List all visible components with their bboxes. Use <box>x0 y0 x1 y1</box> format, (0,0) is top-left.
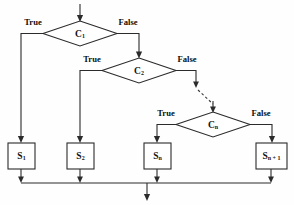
flowchart-svg: C1 True False C2 True <box>0 0 294 205</box>
edge-c1-true <box>18 34 43 144</box>
merge-edge-s2 <box>77 169 83 183</box>
merge-edge-sn-plus-1 <box>268 169 274 183</box>
label-c2-false: False <box>177 54 196 64</box>
edge-c2-false <box>176 71 199 89</box>
decision-c2[interactable]: C2 <box>102 58 176 83</box>
label-c1-false: False <box>118 17 137 27</box>
dashed-continuation-connector <box>198 90 216 113</box>
process-sn-plus-1[interactable]: Sn + 1 <box>256 143 287 169</box>
edge-cn-true <box>154 125 176 144</box>
merge-edge-s1 <box>18 169 24 183</box>
edge-cn-false <box>250 125 275 144</box>
process-s2[interactable]: S2 <box>67 143 94 169</box>
flowchart-canvas: C1 True False C2 True <box>0 0 294 205</box>
entry-arrow <box>77 4 83 22</box>
decision-cn[interactable]: Cn <box>176 112 250 137</box>
exit-arrow <box>144 183 150 201</box>
label-c2-true: True <box>83 54 101 64</box>
label-cn-true: True <box>157 108 175 118</box>
process-sn[interactable]: Sn <box>144 143 171 169</box>
merge-edge-sn <box>154 169 160 183</box>
decision-c1[interactable]: C1 <box>43 21 117 46</box>
label-c1-true: True <box>24 17 42 27</box>
edge-c2-true <box>77 71 102 144</box>
process-s1[interactable]: S1 <box>8 143 35 169</box>
edge-c1-false <box>117 34 142 59</box>
label-cn-false: False <box>251 108 270 118</box>
